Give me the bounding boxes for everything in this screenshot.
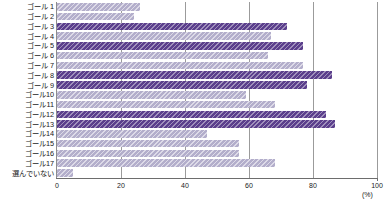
- bar-chart: ゴール 1ゴール 2ゴール 3ゴール 4ゴール 5ゴール 6ゴール 7ゴール 8…: [0, 0, 386, 209]
- category-label-12: ゴール12: [25, 110, 54, 119]
- x-tick-label-100: 100: [367, 182, 386, 189]
- bar-5: [57, 42, 303, 50]
- category-label-4: ゴール 4: [27, 32, 54, 41]
- category-label-16: ゴール16: [25, 149, 54, 158]
- category-label-6: ゴール 6: [27, 51, 54, 60]
- bar-3: [57, 23, 287, 31]
- bar-9: [57, 81, 307, 89]
- bar-10: [57, 91, 246, 99]
- bar-row: [57, 168, 377, 178]
- bar-14: [57, 130, 207, 138]
- category-label-9: ゴール 9: [27, 81, 54, 90]
- bar-row: [57, 31, 377, 41]
- x-tick-label-60: 60: [239, 182, 259, 189]
- category-label-15: ゴール15: [25, 139, 54, 148]
- bar-11: [57, 101, 275, 109]
- bar-4: [57, 32, 271, 40]
- bar-row: [57, 51, 377, 61]
- bar-13: [57, 120, 335, 128]
- x-axis-unit-label: (%): [362, 191, 373, 198]
- x-tick-label-40: 40: [175, 182, 195, 189]
- bar-6: [57, 52, 268, 60]
- bar-18: [57, 169, 73, 177]
- category-label-8: ゴール 8: [27, 71, 54, 80]
- bar-row: [57, 129, 377, 139]
- bar-row: [57, 139, 377, 149]
- bar-1: [57, 3, 140, 11]
- category-label-5: ゴール 5: [27, 41, 54, 50]
- x-axis-line: [56, 178, 378, 179]
- plot-area: [57, 2, 377, 178]
- category-axis-labels: ゴール 1ゴール 2ゴール 3ゴール 4ゴール 5ゴール 6ゴール 7ゴール 8…: [0, 2, 56, 178]
- category-label-17: ゴール17: [25, 159, 54, 168]
- category-label-7: ゴール 7: [27, 61, 54, 70]
- bar-row: [57, 22, 377, 32]
- x-tick-100: [377, 178, 378, 181]
- category-label-10: ゴール10: [25, 90, 54, 99]
- bar-row: [57, 70, 377, 80]
- bar-row: [57, 90, 377, 100]
- category-label-3: ゴール 3: [27, 22, 54, 31]
- bar-row: [57, 61, 377, 71]
- bar-row: [57, 41, 377, 51]
- category-label-1: ゴール 1: [27, 2, 54, 11]
- x-tick-label-80: 80: [303, 182, 323, 189]
- category-label-18: 選んでいない: [12, 169, 54, 178]
- bar-row: [57, 80, 377, 90]
- bar-row: [57, 110, 377, 120]
- category-label-13: ゴール13: [25, 120, 54, 129]
- bar-row: [57, 119, 377, 129]
- bar-2: [57, 13, 134, 21]
- bar-15: [57, 140, 239, 148]
- bar-row: [57, 2, 377, 12]
- x-tick-label-0: 0: [47, 182, 67, 189]
- bar-16: [57, 150, 239, 158]
- bar-12: [57, 111, 326, 119]
- bar-row: [57, 149, 377, 159]
- bar-7: [57, 62, 303, 70]
- bar-17: [57, 159, 275, 167]
- bar-row: [57, 100, 377, 110]
- bar-row: [57, 158, 377, 168]
- bar-row: [57, 12, 377, 22]
- x-tick-label-20: 20: [111, 182, 131, 189]
- category-label-11: ゴール11: [25, 100, 54, 109]
- category-label-2: ゴール 2: [27, 12, 54, 21]
- category-label-14: ゴール14: [25, 129, 54, 138]
- gridline-100: [377, 2, 378, 178]
- bar-8: [57, 71, 332, 79]
